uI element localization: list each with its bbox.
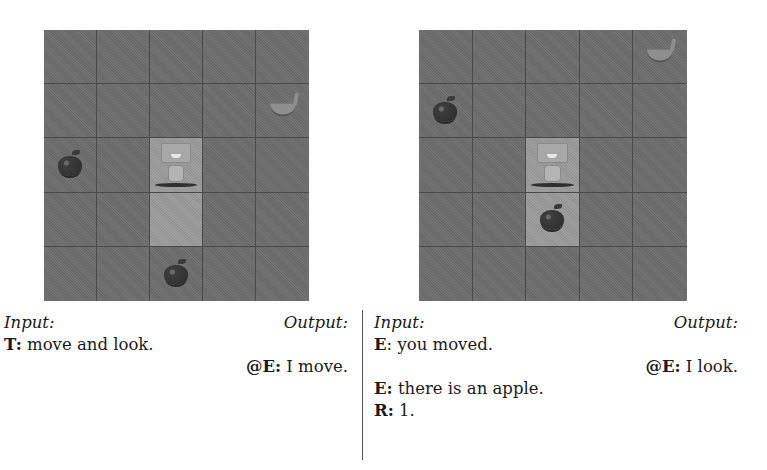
robot-base	[155, 183, 197, 187]
dialogue-line: E: you moved.	[374, 334, 738, 356]
grid-cell	[419, 30, 473, 84]
robot-icon	[529, 140, 576, 187]
grid-cell	[526, 138, 580, 192]
grid-cell	[633, 193, 687, 247]
robot-body	[544, 165, 561, 182]
dialogue-line: @E: I look.	[374, 356, 738, 378]
grid-cell	[150, 84, 203, 138]
grid-cell	[580, 30, 634, 84]
grid-cell	[44, 138, 97, 192]
robot-mouth	[547, 154, 557, 158]
grid-cell	[473, 138, 527, 192]
left-gridworld	[44, 30, 309, 301]
banana-icon	[270, 103, 296, 116]
speaker-tag: @E:	[246, 357, 281, 376]
grid-cell	[633, 138, 687, 192]
grid-cell	[473, 247, 527, 301]
grid-cell	[44, 84, 97, 138]
grid-cell	[526, 84, 580, 138]
utterance: there is an apple.	[393, 379, 544, 398]
grid-cell	[44, 247, 97, 301]
apple-icon	[164, 265, 188, 285]
robot-mouth	[171, 154, 181, 158]
speaker-tag: R:	[374, 401, 394, 420]
grid-cell	[203, 247, 256, 301]
dialogue-line: E: there is an apple.	[374, 378, 738, 400]
header-row: Input: Output:	[4, 312, 348, 334]
speaker-tag: @E:	[645, 357, 680, 376]
grid-cell	[256, 30, 309, 84]
grid-cell	[526, 193, 580, 247]
panel-divider	[362, 310, 363, 460]
grid-cell	[203, 84, 256, 138]
banana-icon	[647, 49, 673, 62]
right-gridworld	[419, 30, 687, 301]
utterance: 1.	[394, 401, 415, 420]
grid-cell	[473, 193, 527, 247]
apple-icon	[433, 102, 457, 122]
grid-cell	[256, 84, 309, 138]
grid-cell	[150, 247, 203, 301]
grid-cell	[419, 84, 473, 138]
grid-cell	[97, 193, 150, 247]
robot-base	[531, 183, 574, 187]
dialogue-line: R: 1.	[374, 400, 738, 422]
utterance: : you moved.	[387, 335, 493, 354]
grid-cell	[580, 84, 634, 138]
output-label: Output:	[674, 312, 738, 334]
grid-cell	[419, 247, 473, 301]
grid-cell	[473, 30, 527, 84]
grid-cell	[97, 138, 150, 192]
grid-cell	[44, 30, 97, 84]
robot-head	[161, 143, 191, 163]
grid-cell	[150, 193, 203, 247]
robot-body	[168, 165, 184, 182]
grid-cell	[203, 30, 256, 84]
apple-icon	[58, 156, 82, 176]
grid-cell	[473, 84, 527, 138]
grid-cell	[256, 138, 309, 192]
right-dialogue-panel: Input: Output: E: you moved. @E: I look.…	[374, 312, 738, 422]
grid-cell	[419, 193, 473, 247]
dialogue-line: T: move and look.	[4, 334, 348, 356]
utterance: I move.	[281, 357, 348, 376]
grid-cell	[44, 193, 97, 247]
robot-icon	[153, 140, 199, 187]
grid-cell	[256, 247, 309, 301]
grid-cell	[580, 193, 634, 247]
grid-cell	[203, 138, 256, 192]
speaker-tag: T:	[4, 335, 22, 354]
grid-cell	[203, 193, 256, 247]
left-dialogue-panel: Input: Output: T: move and look. @E: I m…	[4, 312, 348, 378]
grid-cell	[633, 247, 687, 301]
utterance: I look.	[681, 357, 738, 376]
header-row: Input: Output:	[374, 312, 738, 334]
speaker-tag: E	[374, 335, 387, 354]
grid-cell	[526, 30, 580, 84]
grid-cell	[526, 247, 580, 301]
speaker-tag: E:	[374, 379, 393, 398]
robot-head	[537, 143, 568, 163]
grid-cell	[633, 84, 687, 138]
grid-cell	[97, 247, 150, 301]
apple-icon	[540, 210, 564, 230]
grid-cell	[633, 30, 687, 84]
grid-cell	[97, 84, 150, 138]
grid-cell	[97, 30, 150, 84]
grid-cell	[580, 247, 634, 301]
input-label: Input:	[374, 312, 425, 334]
input-label: Input:	[4, 312, 55, 334]
grid-cell	[580, 138, 634, 192]
grid-cell	[150, 30, 203, 84]
grid-cell	[419, 138, 473, 192]
output-label: Output:	[284, 312, 348, 334]
utterance: move and look.	[22, 335, 154, 354]
dialogue-line: @E: I move.	[4, 356, 348, 378]
grid-cell	[150, 138, 203, 192]
grid-cell	[256, 193, 309, 247]
